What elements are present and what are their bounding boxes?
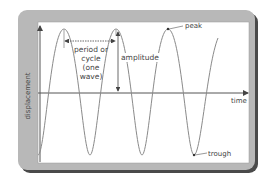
trough-label: trough bbox=[208, 150, 231, 158]
x-axis-label: time bbox=[231, 97, 247, 105]
period-label-line-4: wave) bbox=[80, 72, 103, 81]
period-label-line-2: cycle bbox=[81, 54, 101, 63]
peak-label: peak bbox=[185, 22, 203, 30]
trough-dot bbox=[193, 154, 195, 156]
period-label-line-1: period or bbox=[74, 45, 109, 54]
y-axis-label: displacement bbox=[24, 72, 32, 119]
wave-diagram: period or cycle (one wave) amplitude pea… bbox=[0, 0, 274, 185]
peak-dot bbox=[167, 28, 169, 30]
amplitude-label: amplitude bbox=[121, 53, 159, 62]
period-label-line-3: (one bbox=[83, 63, 100, 72]
